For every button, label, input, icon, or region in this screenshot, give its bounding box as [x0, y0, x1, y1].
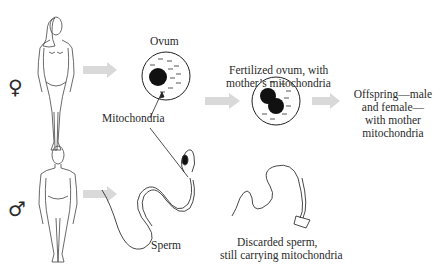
offspring-line2: and female— [344, 101, 442, 114]
discarded-line2: still carrying mitochondria [220, 249, 343, 262]
ovum-label: Ovum [150, 35, 179, 48]
offspring-line3: with mother [344, 114, 442, 127]
ovum-cell [142, 52, 190, 100]
offspring-line4: mitochondria [344, 127, 442, 140]
fertilized-caption-line1: Fertilized ovum, with [229, 64, 328, 77]
fertilized-caption-line2: mother’s mitochondria [226, 77, 331, 90]
male-symbol: ♂ [8, 198, 26, 220]
sperm [102, 150, 195, 249]
arrow-to-offspring [312, 93, 340, 109]
male-figure [39, 146, 77, 262]
female-symbol: ♀ [8, 76, 23, 98]
arrow-male-to-sperm [83, 186, 117, 202]
mitochondria-label: Mitochondria [102, 112, 165, 125]
sperm-label: Sperm [151, 239, 181, 252]
arrow-to-fertilized [205, 93, 240, 109]
mitochondria-pointers [150, 92, 188, 177]
offspring-line1: Offspring—male [344, 88, 442, 101]
discarded-line1: Discarded sperm, [237, 236, 317, 249]
female-figure [38, 17, 74, 150]
discarded-sperm [232, 165, 310, 228]
arrow-female-to-ovum [83, 62, 117, 78]
